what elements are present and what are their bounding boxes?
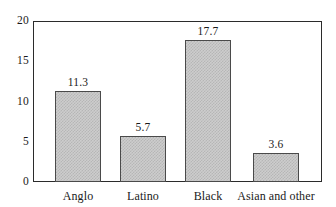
y-axis-tick-label: 0: [3, 176, 29, 188]
y-axis-tick-label: 5: [3, 136, 29, 148]
bar: [185, 40, 231, 182]
bar: [120, 136, 166, 182]
x-axis-category-label: Asian and other: [226, 189, 326, 203]
y-axis-tick-label: 15: [3, 55, 29, 67]
bar: [55, 91, 101, 182]
bar-value-label: 3.6: [246, 138, 306, 150]
y-axis-tick-label: 20: [3, 15, 29, 27]
bar-value-label: 11.3: [48, 76, 108, 88]
bar: [253, 153, 299, 182]
y-axis-tick-labels: 05101520: [0, 0, 29, 12]
bar-value-label: 5.7: [113, 121, 173, 133]
bar-chart: 05101520 11.35.717.73.6 AngloLatinoBlack…: [0, 0, 336, 207]
bar-value-label: 17.7: [178, 25, 238, 37]
y-axis-tick-label: 10: [3, 96, 29, 108]
